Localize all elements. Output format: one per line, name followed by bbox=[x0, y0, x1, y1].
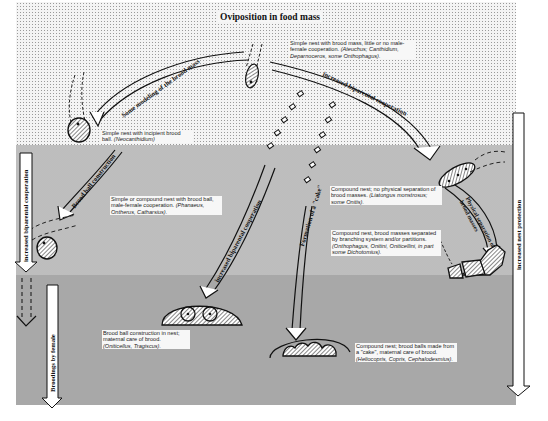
note-compound-nest-no-separation: Compound nest; no physical separation of… bbox=[330, 186, 442, 205]
note-cake-nest: Compound nest; brood balls made from a "… bbox=[355, 343, 457, 362]
label-left-vertical: increased biparental cooperation bbox=[22, 170, 29, 262]
note-compound-nest-partitions: Compound nest, brood masses separated by… bbox=[331, 230, 441, 256]
cake-nest bbox=[270, 339, 350, 358]
arrow-formation-of-cake bbox=[267, 91, 335, 340]
simple-nest-brood-mass bbox=[244, 44, 262, 89]
diagram-title: Oviposition in food mass bbox=[218, 12, 322, 22]
note-brood-ball-cooperation: Simple or compound nest with brood ball,… bbox=[110, 196, 222, 215]
label-right-vertical: increased nest protection bbox=[515, 200, 522, 270]
evolution-of-nesting-diagram: Oviposition in food mass Simple nest wit… bbox=[0, 0, 548, 421]
note-incipient-brood-ball: Simple nest with incipient brood ball. (… bbox=[101, 130, 193, 143]
note-maternal-care: Brood ball construction in nest; materna… bbox=[102, 330, 190, 349]
compound-nest-no-separation bbox=[436, 151, 505, 192]
label-broodings-by-female: Broodings by female bbox=[49, 334, 56, 392]
note-simple-nest-brood-mass: Simple nest with brood mass, little or n… bbox=[289, 40, 416, 59]
arrow-some-modeling bbox=[90, 52, 248, 126]
arrow-biparental-top bbox=[270, 62, 440, 160]
incipient-brood-ball bbox=[68, 72, 90, 142]
brood-ball bbox=[30, 215, 78, 259]
maternal-care-nest bbox=[162, 306, 242, 325]
